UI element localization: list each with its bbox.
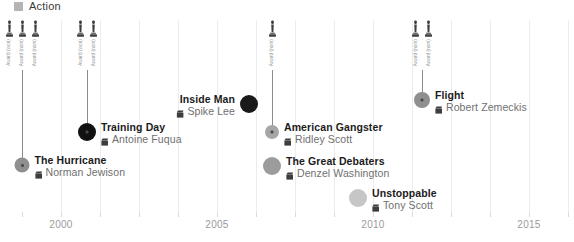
axis-tick [490,212,491,217]
axis-tick [100,212,101,217]
event-director-name: Norman Jewison [46,166,126,179]
axis-tick [412,212,413,217]
award-label: Award (nom) [19,39,24,66]
award-statuette-icon [88,20,99,37]
award-item[interactable]: Award (won) [4,20,15,66]
event-label[interactable]: Inside ManSpike Lee [176,93,235,118]
axis-tick [61,212,62,217]
award-group: Award (won)Award (nom)Award (nom) [4,20,41,66]
gridline [568,20,569,212]
event-marker[interactable] [78,123,96,141]
award-item[interactable]: Award (won) [75,20,86,66]
gridline [490,20,491,212]
award-item[interactable]: Award (nom) [17,20,28,66]
marker-center-dot [87,132,88,133]
event-label[interactable]: The Great DebatersDenzel Washington [286,155,389,180]
award-statuette-icon [30,20,41,37]
event-label[interactable]: UnstoppableTony Scott [372,187,437,212]
axis-tick [217,212,218,217]
gridline [139,20,140,212]
axis-tick [256,212,257,217]
event-director: Norman Jewison [35,166,126,179]
award-group: Award (won)Award (nom) [75,20,99,66]
marker-center-dot [422,100,423,101]
award-label: Award (nom) [91,39,96,66]
axis-tick-label: 2015 [517,219,540,230]
event-director: Tony Scott [372,199,437,212]
event-marker[interactable] [240,95,258,113]
award-label: Award (nom) [413,39,418,66]
clapperboard-icon [435,106,443,114]
award-label: Award (nom) [426,39,431,66]
event-label[interactable]: American GangsterRidley Scott [284,121,383,146]
event-marker[interactable] [15,158,30,173]
clapperboard-icon [35,171,43,179]
event-director-name: Tony Scott [383,199,433,212]
event-title: Flight [435,89,527,101]
award-item[interactable]: Award (nom) [267,20,278,66]
award-label: Award (won) [78,39,83,66]
clapperboard-icon [286,172,294,180]
event-title: Training Day [101,121,182,133]
axis-tick [295,212,296,217]
gridline [529,20,530,212]
gridline [100,20,101,212]
event-director: Robert Zemeckis [435,101,527,114]
axis-tick-label: 2005 [205,219,228,230]
axis-tick [22,212,23,217]
event-title: Unstoppable [372,187,437,199]
event-stem [22,70,23,165]
event-marker[interactable] [414,92,430,108]
gridline [295,20,296,212]
clapperboard-icon [372,204,380,212]
axis-tick-label: 2010 [361,219,384,230]
event-label[interactable]: Training DayAntoine Fuqua [101,121,182,146]
gridline [451,20,452,212]
award-item[interactable]: Award (nom) [30,20,41,66]
award-label: Award (nom) [32,39,37,66]
award-statuette-icon [4,20,15,37]
event-director-name: Ridley Scott [295,133,352,146]
axis-tick [529,212,530,217]
award-item[interactable]: Award (nom) [423,20,434,66]
award-item[interactable]: Award (nom) [410,20,421,66]
gridline [256,20,257,212]
axis-tick [178,212,179,217]
x-axis: 2000200520102015 [0,212,574,242]
award-statuette-icon [17,20,28,37]
award-statuette-icon [423,20,434,37]
award-item[interactable]: Award (nom) [88,20,99,66]
event-marker[interactable] [265,125,279,139]
event-director: Spike Lee [176,105,235,118]
event-director: Ridley Scott [284,133,383,146]
legend-label-action: Action [29,1,61,12]
event-marker[interactable] [349,189,367,207]
event-director: Denzel Washington [286,167,389,180]
event-title: Inside Man [176,93,235,105]
event-director: Antoine Fuqua [101,133,182,146]
event-title: The Great Debaters [286,155,389,167]
award-statuette-icon [267,20,278,37]
event-director-name: Spike Lee [187,105,235,118]
event-label[interactable]: FlightRobert Zemeckis [435,89,527,114]
event-director-name: Denzel Washington [297,167,389,180]
axis-tick [334,212,335,217]
award-label: Award (nom) [269,39,274,66]
timeline-chart: Action Award (won)Award (nom)Award (nom)… [0,0,574,242]
axis-tick [139,212,140,217]
axis-tick [568,212,569,217]
event-director-name: Antoine Fuqua [112,133,182,146]
axis-tick [451,212,452,217]
legend-swatch-action [14,2,23,11]
axis-tick-label: 2000 [49,219,72,230]
legend: Action [14,1,61,12]
event-label[interactable]: The HurricaneNorman Jewison [35,154,126,179]
axis-tick [373,212,374,217]
event-marker[interactable] [263,157,281,175]
event-title: American Gangster [284,121,383,133]
marker-center-dot [272,132,273,133]
clapperboard-icon [176,110,184,118]
award-label: Award (won) [6,39,11,66]
gridline [61,20,62,212]
gridline [334,20,335,212]
